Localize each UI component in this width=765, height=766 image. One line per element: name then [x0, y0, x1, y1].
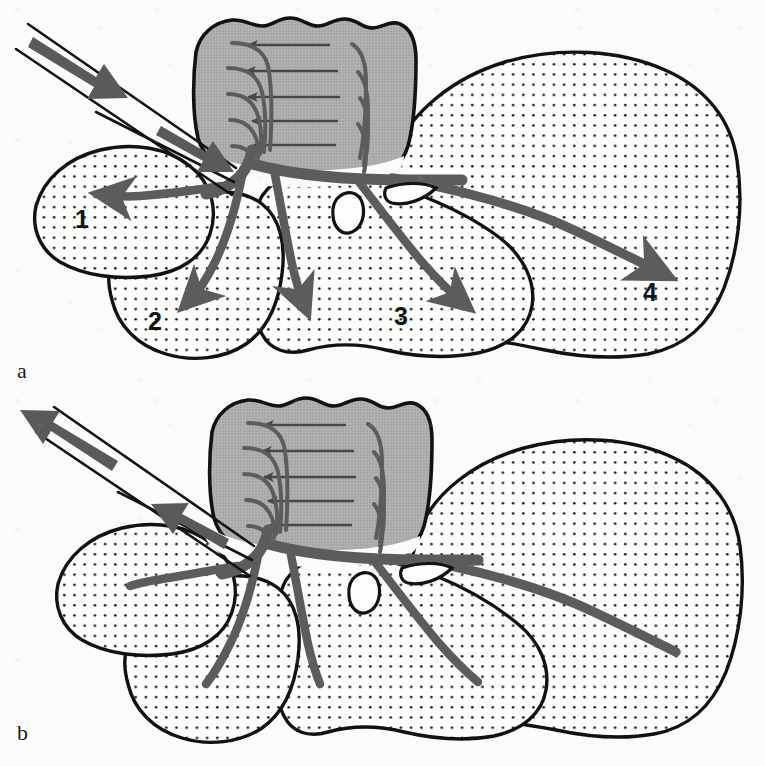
- shaded-organ-a: [194, 18, 416, 180]
- panel-label-a: a: [17, 358, 27, 383]
- segment-label-3: 3: [394, 302, 408, 330]
- segment-label-4: 4: [643, 278, 657, 306]
- shaded-organ-b: [210, 398, 432, 560]
- segment-label-2: 2: [148, 307, 162, 335]
- hilar-oval-a: [333, 193, 364, 233]
- hilar-oval-b: [349, 573, 380, 613]
- anatomical-flow-diagram: 1 2 3 4 a: [0, 0, 765, 766]
- panel-label-b: b: [17, 720, 28, 745]
- figure-root: 1 2 3 4 a: [0, 0, 765, 766]
- segment-label-1: 1: [75, 205, 89, 233]
